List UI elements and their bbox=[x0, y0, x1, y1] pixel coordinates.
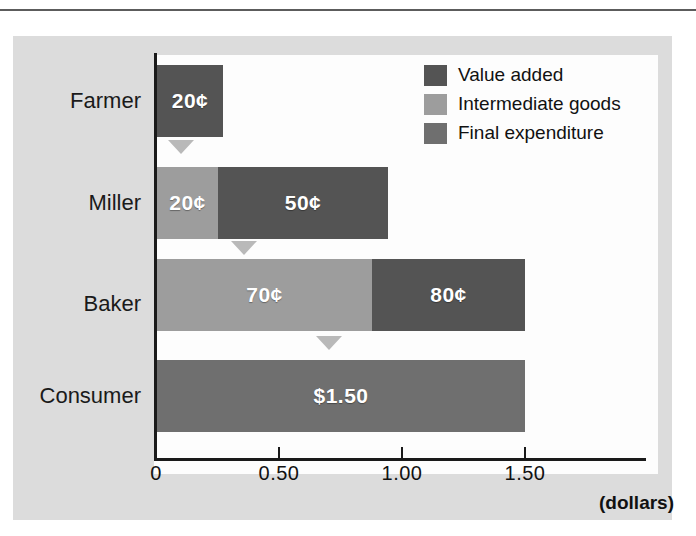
flow-arrow-miller-to-baker bbox=[231, 241, 257, 255]
bar-label-miller-value-added: 50¢ bbox=[285, 191, 322, 215]
x-axis-title: (dollars) bbox=[599, 492, 674, 514]
chart-legend: Value added Intermediate goods Final exp… bbox=[424, 62, 621, 149]
bar-row-baker: 70¢ 80¢ bbox=[157, 259, 525, 331]
top-divider-rule bbox=[0, 9, 696, 11]
category-label-consumer: Consumer bbox=[40, 383, 141, 409]
bar-label-farmer-value-added: 20¢ bbox=[172, 89, 209, 113]
legend-label-intermediate-goods: Intermediate goods bbox=[458, 93, 621, 115]
bar-row-consumer: $1.50 bbox=[157, 360, 525, 432]
bar-segment-baker-intermediate-goods: 70¢ bbox=[157, 259, 372, 331]
legend-swatch-intermediate-goods-icon bbox=[424, 94, 447, 115]
x-tick-050 bbox=[278, 447, 280, 459]
x-tick-150 bbox=[524, 447, 526, 459]
legend-item-intermediate-goods: Intermediate goods bbox=[424, 91, 621, 117]
category-label-baker: Baker bbox=[84, 291, 141, 317]
flow-arrow-baker-to-consumer bbox=[316, 336, 342, 350]
category-label-miller: Miller bbox=[88, 190, 141, 216]
bar-segment-baker-value-added: 80¢ bbox=[372, 259, 525, 331]
bar-row-farmer: 20¢ bbox=[157, 65, 223, 137]
legend-swatch-final-expenditure-icon bbox=[424, 123, 447, 144]
bar-segment-miller-value-added: 50¢ bbox=[218, 167, 388, 239]
x-tick-0 bbox=[155, 447, 157, 459]
bar-label-miller-intermediate-goods: 20¢ bbox=[169, 191, 206, 215]
legend-swatch-value-added-icon bbox=[424, 65, 447, 86]
value-added-chain-figure: Farmer Miller Baker Consumer 20¢ 20¢ 50¢… bbox=[0, 0, 696, 536]
legend-label-value-added: Value added bbox=[458, 64, 563, 86]
x-tick-100 bbox=[401, 447, 403, 459]
bar-segment-consumer-final-expenditure: $1.50 bbox=[157, 360, 525, 432]
x-axis-line bbox=[154, 458, 646, 461]
bar-label-baker-intermediate-goods: 70¢ bbox=[246, 283, 283, 307]
bar-segment-farmer-value-added: 20¢ bbox=[157, 65, 223, 137]
x-tick-label-150: 1.50 bbox=[505, 462, 546, 485]
legend-item-value-added: Value added bbox=[424, 62, 621, 88]
legend-label-final-expenditure: Final expenditure bbox=[458, 122, 604, 144]
x-tick-label-100: 1.00 bbox=[382, 462, 423, 485]
category-label-farmer: Farmer bbox=[70, 88, 141, 114]
bar-segment-miller-intermediate-goods: 20¢ bbox=[157, 167, 218, 239]
bar-row-miller: 20¢ 50¢ bbox=[157, 167, 388, 239]
x-tick-label-050: 0.50 bbox=[259, 462, 300, 485]
bar-label-baker-value-added: 80¢ bbox=[430, 283, 467, 307]
flow-arrow-farmer-to-miller bbox=[168, 140, 194, 154]
x-tick-label-0: 0 bbox=[150, 462, 162, 485]
bar-label-consumer-final-expenditure: $1.50 bbox=[313, 384, 368, 408]
legend-item-final-expenditure: Final expenditure bbox=[424, 120, 621, 146]
